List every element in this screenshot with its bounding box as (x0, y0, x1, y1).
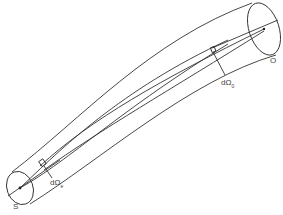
source-label: S (13, 202, 18, 211)
ray-tube-diagram (0, 0, 283, 215)
central-axis-observer (212, 20, 278, 48)
solid-angle-emit-label: dΩe (50, 178, 63, 189)
observer-leader-line (213, 52, 225, 75)
tube-lower-edge (30, 55, 276, 204)
source-element (39, 159, 47, 167)
solid-angle-obs-label: dΩ0 (221, 78, 234, 89)
tube-upper-edge (12, 3, 252, 172)
observer-label: O (270, 56, 276, 65)
ray-line-3 (40, 29, 264, 166)
observer-point (263, 28, 265, 30)
source-point (19, 187, 22, 190)
